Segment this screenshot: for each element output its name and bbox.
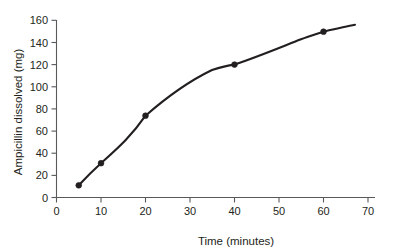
y-tick-label-0: 0 (42, 192, 48, 204)
data-point-60min (321, 29, 327, 35)
ampicillin-dissolution-chart: Ampicillin dissolved (mg) Time (minutes)… (0, 0, 420, 252)
x-axis-ticks: 0 10 20 30 40 50 60 70 (53, 198, 374, 218)
data-point-10min (98, 160, 104, 166)
y-axis-ticks: 0 20 40 60 80 100 120 140 160 (30, 14, 57, 203)
y-tick-label-40: 40 (36, 147, 48, 159)
y-tick-label-140: 140 (30, 37, 48, 49)
data-series-ampicillin (76, 25, 355, 188)
x-tick-label-10: 10 (95, 205, 107, 217)
x-tick-label-0: 0 (53, 205, 59, 217)
x-tick-label-50: 50 (273, 205, 285, 217)
x-tick-label-60: 60 (317, 205, 329, 217)
y-tick-label-160: 160 (30, 14, 48, 26)
x-tick-label-30: 30 (184, 205, 196, 217)
y-tick-label-80: 80 (36, 103, 48, 115)
y-tick-label-100: 100 (30, 81, 48, 93)
series-curve (79, 25, 355, 186)
x-axis-title: Time (minutes) (198, 235, 274, 247)
chart-figure: Ampicillin dissolved (mg) Time (minutes)… (0, 0, 420, 252)
y-axis-title: Ampicillin dissolved (mg) (12, 49, 24, 176)
y-tick-label-120: 120 (30, 59, 48, 71)
x-tick-label-70: 70 (362, 205, 374, 217)
y-tick-label-60: 60 (36, 125, 48, 137)
data-point-20min (143, 113, 149, 119)
data-point-40min (232, 62, 238, 68)
y-tick-label-20: 20 (36, 169, 48, 181)
x-tick-label-20: 20 (139, 205, 151, 217)
data-point-5min (76, 182, 82, 188)
x-tick-label-40: 40 (228, 205, 240, 217)
